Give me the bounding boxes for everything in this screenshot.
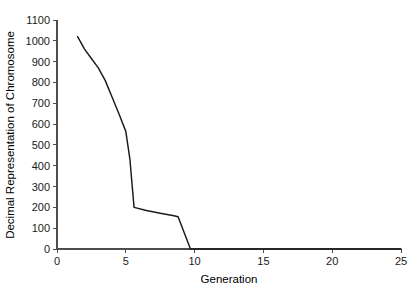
y-tick-label: 700 [32,97,50,109]
x-tick-label: 25 [395,255,407,267]
y-tick-label: 900 [32,56,50,68]
y-axis-title: Decimal Representation of Chromosome [4,31,16,239]
x-tick-label: 10 [188,255,200,267]
x-axis-group: 0510152025 [54,249,407,267]
y-axis-tick-labels: 010020030040050060070080090010001100 [26,14,50,255]
x-tick-label: 20 [326,255,338,267]
y-tick-label: 800 [32,76,50,88]
x-tick-label: 15 [257,255,269,267]
line-chart: 010020030040050060070080090010001100 051… [0,0,416,293]
y-tick-label: 1100 [26,14,50,26]
x-axis-title: Generation [201,273,258,285]
y-tick-label: 400 [32,160,50,172]
data-series-line [78,37,401,249]
x-tick-label: 5 [123,255,129,267]
y-tick-label: 300 [32,181,50,193]
y-axis-group: 010020030040050060070080090010001100 [26,14,57,255]
y-axis-ticks [53,20,57,249]
x-axis-tick-labels: 0510152025 [54,255,407,267]
y-tick-label: 600 [32,118,50,130]
y-tick-label: 100 [32,222,50,234]
y-tick-label: 0 [44,243,50,255]
y-tick-label: 500 [32,139,50,151]
x-tick-label: 0 [54,255,60,267]
chart-container: 010020030040050060070080090010001100 051… [0,0,416,293]
y-tick-label: 1000 [26,35,50,47]
y-tick-label: 200 [32,201,50,213]
